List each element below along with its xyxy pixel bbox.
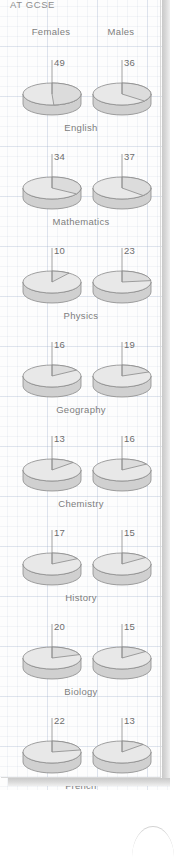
subject-label: Physics bbox=[0, 310, 162, 321]
pie-value-label: 22 bbox=[54, 715, 65, 726]
pie-chart-biology-females: 20 bbox=[21, 636, 83, 680]
pie-chart-biology-males: 15 bbox=[91, 636, 153, 680]
pie-chart-english-females: 49 bbox=[21, 72, 83, 116]
pie-chart-geography-males: 19 bbox=[91, 354, 153, 398]
pie-chart-history-males: 15 bbox=[91, 542, 153, 586]
pie-value-label: 20 bbox=[54, 621, 65, 632]
pie-value-label: 49 bbox=[54, 57, 65, 68]
subject-label: History bbox=[0, 592, 162, 603]
pie-value-label: 16 bbox=[124, 433, 135, 444]
pie-chart-geography-females: 16 bbox=[21, 354, 83, 398]
pie-chart-english-males: 36 bbox=[91, 72, 153, 116]
pie-chart-chemistry-females: 13 bbox=[21, 448, 83, 492]
chart-page: AT GCSE Females Males 49 36English 34 37… bbox=[0, 0, 170, 790]
subject-label: Biology bbox=[0, 686, 162, 697]
column-header-males: Males bbox=[92, 26, 150, 37]
page-shadow-bottom bbox=[8, 778, 170, 786]
pie-chart-chemistry-males: 16 bbox=[91, 448, 153, 492]
pie-value-label: 37 bbox=[124, 151, 135, 162]
pie-value-label: 19 bbox=[124, 339, 135, 350]
subject-label: Chemistry bbox=[0, 498, 162, 509]
pie-value-label: 15 bbox=[124, 527, 135, 538]
pie-value-label: 34 bbox=[54, 151, 65, 162]
pie-chart-french-females: 22 bbox=[21, 730, 83, 774]
subject-label: Geography bbox=[0, 404, 162, 415]
subject-label: Mathematics bbox=[0, 216, 162, 227]
pie-value-label: 23 bbox=[124, 245, 135, 256]
pie-chart-mathematics-females: 34 bbox=[21, 166, 83, 210]
page-title: AT GCSE bbox=[10, 0, 55, 10]
pie-value-label: 16 bbox=[54, 339, 65, 350]
pie-value-label: 15 bbox=[124, 621, 135, 632]
pie-chart-physics-females: 10 bbox=[21, 260, 83, 304]
column-header-females: Females bbox=[22, 26, 80, 37]
pie-chart-history-females: 17 bbox=[21, 542, 83, 586]
pie-value-label: 13 bbox=[54, 433, 65, 444]
page-shadow-right bbox=[162, 0, 170, 782]
subject-label: English bbox=[0, 122, 162, 133]
pie-value-label: 36 bbox=[124, 57, 135, 68]
pie-value-label: 17 bbox=[54, 527, 65, 538]
pie-chart-physics-males: 23 bbox=[91, 260, 153, 304]
pie-value-label: 10 bbox=[54, 245, 65, 256]
pie-chart-mathematics-males: 37 bbox=[91, 166, 153, 210]
pie-value-label: 13 bbox=[124, 715, 135, 726]
corner-arc-artifact bbox=[132, 826, 174, 857]
pie-chart-french-males: 13 bbox=[91, 730, 153, 774]
